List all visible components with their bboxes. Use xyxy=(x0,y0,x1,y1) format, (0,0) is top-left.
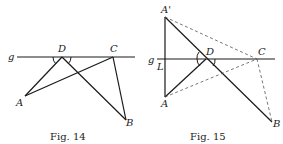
label-a: A xyxy=(15,97,23,108)
caption-fig15: Fig. 15 xyxy=(190,131,226,142)
angle-arc-upper xyxy=(197,52,199,59)
label-d: D xyxy=(205,46,214,57)
label-g: g xyxy=(8,51,14,62)
label-g: g xyxy=(148,54,154,65)
segment-aprime-b xyxy=(165,17,272,122)
label-c: C xyxy=(258,46,266,57)
angle-arc-right xyxy=(68,57,71,64)
segment-d-b xyxy=(62,57,126,120)
angle-arc-lower-right xyxy=(213,59,215,66)
label-b: B xyxy=(125,117,133,128)
figure-14: g D C A B Fig. 14 xyxy=(8,43,135,142)
segment-a-d xyxy=(25,57,62,96)
label-a-prime: A' xyxy=(160,4,171,15)
angle-arc-left xyxy=(53,57,56,64)
label-d: D xyxy=(57,43,66,54)
figure-15: g L A' D C A B Fig. 15 xyxy=(148,4,280,142)
label-l: L xyxy=(156,61,164,72)
segment-c-b xyxy=(113,57,126,120)
label-c: C xyxy=(110,43,118,54)
dashed-a-c xyxy=(165,59,257,97)
caption-fig14: Fig. 14 xyxy=(50,131,86,142)
segment-a-d xyxy=(165,59,206,97)
angle-arc-lower-left xyxy=(197,59,200,66)
figures-canvas: g D C A B Fig. 14 g L A' D C A B Fig. 15 xyxy=(0,0,283,144)
label-b: B xyxy=(272,118,280,129)
label-a: A xyxy=(160,98,168,109)
dashed-c-b xyxy=(257,59,272,122)
